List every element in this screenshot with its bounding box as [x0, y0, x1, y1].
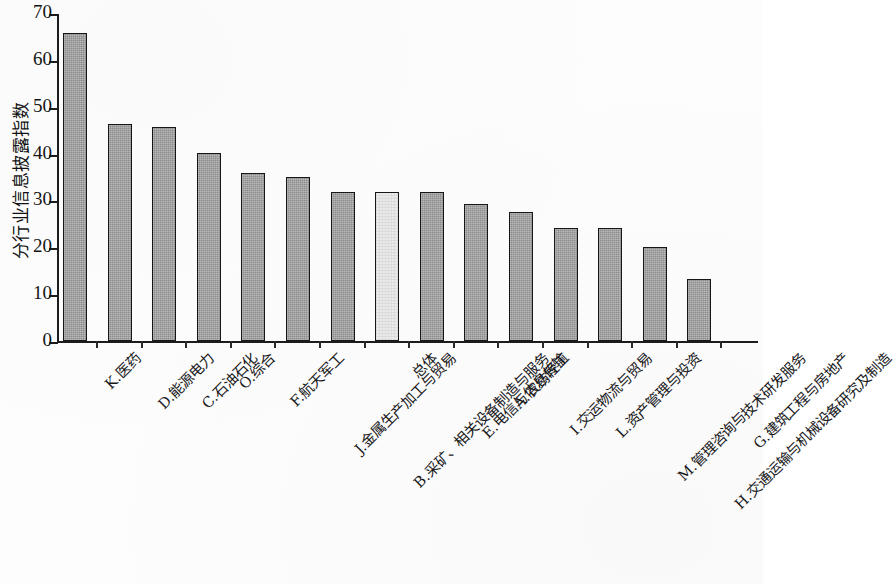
x-axis-label: L.资产管理与投资: [612, 350, 703, 441]
x-axis-label: J.金属生产加工与贸易: [352, 350, 459, 457]
bar: [241, 173, 265, 341]
bar: [152, 127, 176, 341]
x-axis-label: I.交运物流与贸易: [567, 350, 655, 438]
x-tick-mark: [319, 341, 321, 348]
bar: [375, 192, 399, 341]
y-tick-label: 40: [33, 143, 52, 162]
x-tick-mark: [453, 341, 455, 348]
x-axis-label: H.交通运输与机械设备研究及制造: [731, 350, 893, 512]
bar: [197, 153, 221, 341]
x-tick-mark: [720, 341, 722, 348]
x-tick-mark: [274, 341, 276, 348]
bar: [63, 33, 87, 341]
x-tick-mark: [141, 341, 143, 348]
x-tick-mark: [497, 341, 499, 348]
bar: [464, 204, 488, 341]
y-tick-label: 70: [33, 2, 52, 21]
x-axis-label: F.航天军工: [287, 350, 347, 410]
y-tick-label: 20: [33, 236, 52, 255]
y-axis-line: [57, 14, 59, 343]
x-tick-mark: [587, 341, 589, 348]
bar: [509, 212, 533, 341]
x-tick-mark: [364, 341, 366, 348]
y-axis-title: 分行业信息披露指数: [7, 56, 32, 306]
bar: [598, 228, 622, 341]
bar: [687, 279, 711, 341]
bar: [420, 192, 444, 341]
x-tick-mark: [96, 341, 98, 348]
x-tick-mark: [676, 341, 678, 348]
x-tick-mark: [185, 341, 187, 348]
y-tick-label: 60: [33, 49, 52, 68]
plot-area: 010203040506070: [57, 14, 757, 342]
y-tick-label: 30: [33, 189, 52, 208]
y-tick-label: 0: [43, 330, 53, 349]
x-tick-mark: [542, 341, 544, 348]
x-tick-mark: [408, 341, 410, 348]
y-tick-label: 50: [33, 96, 52, 115]
bar: [286, 177, 310, 341]
bar: [331, 192, 355, 341]
x-tick-mark: [230, 341, 232, 348]
x-tick-mark: [631, 341, 633, 348]
bar: [643, 247, 667, 341]
bar: [554, 228, 578, 341]
bar: [108, 124, 132, 341]
x-axis-label: K.医药: [102, 350, 144, 392]
y-tick-label: 10: [33, 283, 52, 302]
